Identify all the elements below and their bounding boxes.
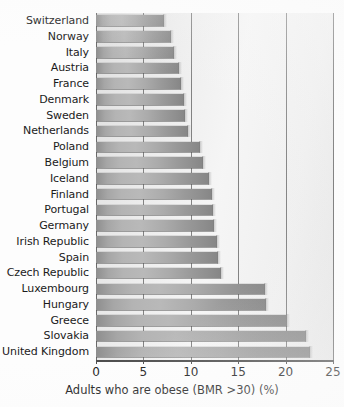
x-axis-title: Adults who are obese (BMR >30) (%) bbox=[0, 383, 344, 397]
category-label: Austria bbox=[51, 60, 89, 76]
category-label: Greece bbox=[50, 313, 89, 329]
bar-row bbox=[96, 171, 333, 187]
bar-row bbox=[96, 344, 333, 360]
x-tick-mark bbox=[238, 360, 239, 364]
bar-row bbox=[96, 218, 333, 234]
bar-denmark bbox=[96, 94, 184, 105]
bar-row bbox=[96, 297, 333, 313]
obesity-bar-chart: SwitzerlandNorwayItalyAustriaFranceDenma… bbox=[0, 0, 344, 407]
category-label: France bbox=[53, 76, 89, 92]
gridline-25 bbox=[333, 13, 334, 360]
x-tick-mark bbox=[191, 360, 192, 364]
bar-austria bbox=[96, 63, 179, 74]
bar-row bbox=[96, 250, 333, 266]
category-label: Poland bbox=[53, 139, 89, 155]
x-tick-label: 0 bbox=[92, 365, 100, 379]
bar-row bbox=[96, 328, 333, 344]
bar-row bbox=[96, 265, 333, 281]
bar-poland bbox=[96, 142, 200, 153]
x-tick-label: 15 bbox=[231, 365, 246, 379]
bar-switzerland bbox=[96, 15, 164, 26]
category-label: Norway bbox=[48, 29, 89, 45]
bar-netherlands bbox=[96, 126, 188, 137]
bar-sweden bbox=[96, 110, 185, 121]
bar-portugal bbox=[96, 205, 213, 216]
bar-italy bbox=[96, 47, 174, 58]
bar-row bbox=[96, 76, 333, 92]
bar-norway bbox=[96, 31, 171, 42]
bar-belgium bbox=[96, 157, 203, 168]
x-tick-mark bbox=[333, 360, 334, 364]
bar-slovakia bbox=[96, 331, 306, 342]
bar-czech-republic bbox=[96, 268, 221, 279]
category-label: Iceland bbox=[50, 171, 89, 187]
bar-row bbox=[96, 92, 333, 108]
bar-row bbox=[96, 29, 333, 45]
category-label: Spain bbox=[59, 250, 89, 266]
x-tick-label: 5 bbox=[140, 365, 148, 379]
x-tick-label: 20 bbox=[278, 365, 293, 379]
bar-luxembourg bbox=[96, 284, 265, 295]
category-label: Hungary bbox=[43, 297, 89, 313]
category-label: Slovakia bbox=[44, 328, 89, 344]
bar-row bbox=[96, 13, 333, 29]
category-label: United Kingdom bbox=[2, 344, 89, 360]
bar-row bbox=[96, 139, 333, 155]
category-label: Czech Republic bbox=[7, 265, 89, 281]
x-tick-mark bbox=[96, 360, 97, 364]
bar-germany bbox=[96, 220, 214, 231]
category-label: Portugal bbox=[44, 202, 89, 218]
x-axis-line bbox=[96, 360, 334, 362]
bar-row bbox=[96, 281, 333, 297]
bar-row bbox=[96, 187, 333, 203]
category-label: Sweden bbox=[46, 108, 89, 124]
bar-iceland bbox=[96, 173, 209, 184]
bar-france bbox=[96, 78, 181, 89]
bar-row bbox=[96, 202, 333, 218]
category-label: Germany bbox=[39, 218, 89, 234]
x-tick-mark bbox=[143, 360, 144, 364]
category-label: Denmark bbox=[39, 92, 89, 108]
bar-row bbox=[96, 123, 333, 139]
plot-area bbox=[96, 13, 333, 360]
category-axis-labels: SwitzerlandNorwayItalyAustriaFranceDenma… bbox=[0, 13, 92, 360]
bar-row bbox=[96, 155, 333, 171]
category-label: Italy bbox=[66, 45, 89, 61]
bar-united-kingdom bbox=[96, 347, 310, 358]
bar-hungary bbox=[96, 299, 266, 310]
bar-row bbox=[96, 108, 333, 124]
bar-greece bbox=[96, 315, 287, 326]
bar-row bbox=[96, 45, 333, 61]
category-label: Irish Republic bbox=[16, 234, 89, 250]
bar-row bbox=[96, 234, 333, 250]
bar-rows bbox=[96, 13, 333, 360]
category-label: Finland bbox=[50, 187, 89, 203]
x-tick-label: 10 bbox=[183, 365, 198, 379]
category-label: Luxembourg bbox=[21, 281, 89, 297]
bar-finland bbox=[96, 189, 212, 200]
category-label: Switzerland bbox=[26, 13, 89, 29]
bar-spain bbox=[96, 252, 218, 263]
bar-irish-republic bbox=[96, 236, 217, 247]
bar-row bbox=[96, 60, 333, 76]
x-tick-label: 25 bbox=[325, 365, 340, 379]
bar-row bbox=[96, 313, 333, 329]
x-tick-mark bbox=[286, 360, 287, 364]
category-label: Netherlands bbox=[23, 123, 89, 139]
category-label: Belgium bbox=[45, 155, 89, 171]
